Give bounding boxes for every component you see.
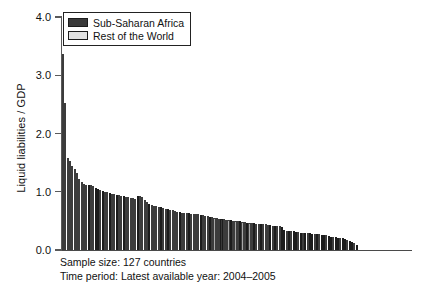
y-axis-tick	[55, 16, 62, 17]
caption-sample-size: Sample size: 127 countries	[60, 256, 276, 270]
chart-caption: Sample size: 127 countries Time period: …	[60, 256, 276, 283]
y-axis-tick-label: 0.0	[15, 244, 51, 256]
y-axis-tick-label: 3.0	[15, 69, 51, 81]
y-axis-tick-labels: 4.03.02.01.00.0	[13, 0, 51, 295]
y-axis-tick	[55, 249, 62, 250]
y-axis-tick-label: 2.0	[15, 128, 51, 140]
y-axis-tick-label: 4.0	[15, 11, 51, 23]
chart-figure: Liquid liabilities / GDP 4.03.02.01.00.0…	[0, 0, 433, 295]
legend-item-rest-of-the-world: Rest of the World	[68, 29, 184, 42]
bar-series	[62, 17, 412, 250]
legend-swatch-sub-saharan-africa	[68, 18, 88, 27]
y-axis-tick	[55, 191, 62, 192]
caption-time-period: Time period: Latest available year: 2004…	[60, 270, 276, 284]
y-axis-tick	[55, 75, 62, 76]
plot-area	[62, 17, 412, 250]
legend-label-sub-saharan-africa: Sub-Saharan Africa	[93, 17, 184, 29]
legend-swatch-rest-of-the-world	[68, 31, 88, 40]
legend-label-rest-of-the-world: Rest of the World	[93, 30, 174, 42]
y-axis-tick	[55, 133, 62, 134]
chart-legend: Sub-Saharan Africa Rest of the World	[63, 12, 191, 46]
y-axis-tick-label: 1.0	[15, 186, 51, 198]
legend-item-sub-saharan-africa: Sub-Saharan Africa	[68, 16, 184, 29]
bar	[356, 245, 358, 250]
